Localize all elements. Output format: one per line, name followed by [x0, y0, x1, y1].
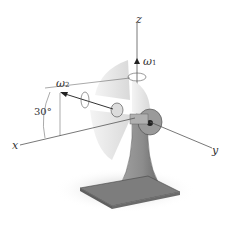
y-axis-label: y — [212, 145, 218, 156]
omega2-label: ω2 — [56, 78, 69, 89]
omega2-arrowhead — [60, 92, 68, 97]
x-axis-label: x — [12, 140, 18, 151]
fan-blade-bottom — [90, 110, 132, 160]
omega1-label: ω1 — [143, 56, 156, 67]
y-axis — [150, 122, 212, 148]
angle-label: 30° — [34, 107, 52, 117]
z-axis-label: z — [136, 14, 142, 25]
omega1-arrowhead — [134, 58, 140, 64]
fan-hub — [111, 103, 123, 117]
